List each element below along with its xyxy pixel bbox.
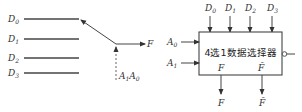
output-label-f: F [146, 39, 154, 49]
input-label-d1: D1 [7, 34, 19, 45]
mux-title: 4选1数据选择器 [204, 47, 276, 58]
mux-inner-label-fbar: F̄ [257, 62, 265, 73]
mux-input-label-d2: D2 [244, 3, 256, 14]
switch-model: D0 D1 D2 D3 F A1A0 [7, 14, 154, 82]
mux-block: D0 D1 D2 D3 4选1数据选择器 A0 A1 F F̄ F F̄ [166, 3, 295, 108]
input-label-d0: D0 [7, 14, 19, 25]
mux-inner-label-f: F [217, 63, 225, 73]
mux-output-label-f: F [217, 98, 225, 108]
input-label-d2: D2 [7, 53, 19, 64]
switch-arm [81, 20, 116, 44]
mux-select-label-a0: A0 [166, 37, 178, 48]
mux-input-label-d1: D1 [224, 3, 236, 14]
mux-diagram: D0 D1 D2 D3 F A1A0 D0 D1 D2 D3 4选1数据选择器 [0, 0, 302, 112]
mux-input-label-d3: D3 [266, 3, 278, 14]
select-label: A1A0 [118, 71, 140, 82]
mux-select-label-a1: A1 [166, 58, 177, 69]
mux-input-label-d0: D0 [204, 3, 216, 14]
inverter-bubble-icon [282, 52, 287, 57]
input-label-d3: D3 [7, 68, 19, 79]
mux-output-label-fbar: F̄ [258, 97, 266, 108]
